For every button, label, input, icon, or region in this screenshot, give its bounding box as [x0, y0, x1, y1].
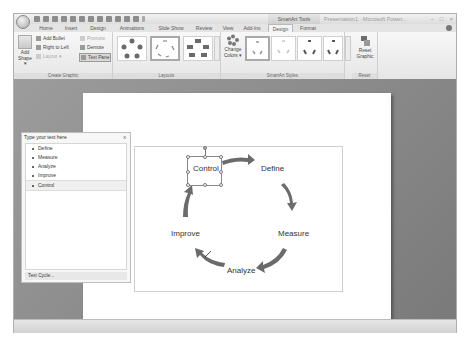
tab-view[interactable]: View: [219, 24, 237, 32]
office-button[interactable]: [16, 15, 30, 29]
tab-smartart-design[interactable]: Design: [268, 24, 293, 32]
right-to-left-button[interactable]: Right to Left: [36, 44, 69, 51]
text-pane-footer-layout-name[interactable]: Text Cycle...: [25, 272, 127, 280]
group-layouts: Layouts: [113, 32, 221, 79]
list-item[interactable]: Improve: [26, 171, 126, 180]
print-icon[interactable]: [88, 16, 94, 22]
text-pane-list[interactable]: Define Measure Analyze Improve Control: [25, 143, 127, 270]
undo-icon[interactable]: [43, 16, 49, 22]
style-moderate-effect[interactable]: [323, 36, 343, 61]
reset-graphic-button[interactable]: Reset Graphic: [354, 35, 376, 59]
list-item[interactable]: Control: [26, 180, 126, 191]
redo-icon[interactable]: [52, 16, 58, 22]
new-icon[interactable]: [70, 16, 76, 22]
text-pane-header: Type your text here x: [22, 133, 130, 142]
resize-handle[interactable]: [219, 170, 223, 174]
maximize-icon[interactable]: □: [440, 16, 444, 22]
promote-button[interactable]: Promote: [80, 35, 105, 42]
tab-home[interactable]: Home: [34, 24, 58, 32]
resize-handle[interactable]: [203, 183, 207, 187]
group-smartart-styles: Change Colors ▾ SmartArt Styles: [221, 32, 345, 79]
arrow-icon: [195, 248, 225, 267]
ribbon: Add Shape ▾ Add Bullet Right to Left Lay…: [14, 32, 456, 80]
format-painter-icon[interactable]: [115, 16, 121, 22]
ribbon-tabs: Home Insert Design Animations Slide Show…: [14, 24, 456, 32]
smartart-text-pane: Type your text here x Define Measure Ana…: [21, 132, 131, 283]
change-colors-button[interactable]: Change Colors ▾: [223, 34, 243, 58]
resize-handle[interactable]: [186, 170, 190, 174]
style-simple-fill[interactable]: [245, 36, 270, 61]
basic-cycle-icon: [118, 37, 146, 60]
selected-shape-outline: [187, 156, 222, 186]
rotation-handle[interactable]: [203, 146, 207, 150]
style-preview-icon: [272, 37, 295, 60]
add-bullet-button[interactable]: Add Bullet: [36, 35, 65, 42]
tab-insert[interactable]: Insert: [60, 24, 82, 32]
add-shape-button[interactable]: Add Shape ▾: [16, 35, 34, 67]
tab-review[interactable]: Review: [192, 24, 216, 32]
style-subtle-effect[interactable]: [297, 36, 322, 61]
demote-button[interactable]: Demote: [80, 44, 104, 51]
styles-gallery-scroll[interactable]: [345, 36, 351, 61]
promote-icon: [80, 36, 85, 41]
group-reset: Reset Graphic Reset: [352, 32, 378, 79]
customize-icon[interactable]: [142, 16, 145, 22]
resize-handle[interactable]: [186, 183, 190, 187]
slideshow-icon[interactable]: [124, 16, 130, 22]
arrow-icon: [222, 154, 255, 165]
smartart-node-improve[interactable]: Improve: [171, 229, 200, 238]
text-pane-button[interactable]: Text Pane: [79, 53, 111, 62]
tab-add-ins[interactable]: Add-Ins: [240, 24, 264, 32]
close-icon[interactable]: x: [123, 133, 126, 142]
open-icon[interactable]: [61, 16, 67, 22]
resize-handle[interactable]: [186, 155, 190, 159]
layouts-gallery-scroll[interactable]: [214, 36, 220, 61]
smartart-node-analyze[interactable]: Analyze: [227, 266, 255, 275]
style-preview-icon: [298, 37, 321, 60]
smartart-node-define[interactable]: Define: [261, 164, 284, 173]
smartart-graphic[interactable]: Control Define Measure Analyze Improve: [134, 146, 343, 292]
list-item[interactable]: Measure: [26, 153, 126, 162]
tab-design[interactable]: Design: [86, 24, 110, 32]
slide-workspace: Type your text here x Define Measure Ana…: [14, 79, 456, 319]
status-bar: [14, 319, 456, 333]
text-pane-title: Type your text here: [24, 134, 67, 140]
style-preview-icon: [247, 38, 268, 59]
smartart-tools-label: SmartArt Tools: [268, 14, 320, 24]
print-preview-icon[interactable]: [97, 16, 103, 22]
resize-handle[interactable]: [203, 155, 207, 159]
layout-text-cycle[interactable]: [150, 36, 180, 61]
text-cycle-icon: [152, 38, 178, 59]
help-icon[interactable]: [446, 25, 452, 31]
style-preview-icon: [324, 37, 342, 60]
group-create-graphic: Add Shape ▾ Add Bullet Right to Left Lay…: [14, 32, 113, 79]
text-pane-icon: [81, 55, 86, 60]
demote-icon: [80, 45, 85, 50]
save-icon[interactable]: [34, 16, 40, 22]
quick-access-toolbar: [34, 15, 145, 23]
resize-handle[interactable]: [219, 155, 223, 159]
window-controls: – □ ×: [431, 14, 453, 24]
tab-format[interactable]: Format: [296, 24, 320, 32]
close-icon[interactable]: ×: [449, 16, 453, 22]
window-title: Presentation1 - Microsoft Power...: [324, 14, 407, 24]
mouse-cursor: [205, 251, 211, 257]
layout-icon: [36, 54, 41, 59]
list-item[interactable]: Analyze: [26, 162, 126, 171]
close-icon[interactable]: [79, 16, 85, 22]
layout-block-cycle[interactable]: [183, 36, 213, 61]
layout-button[interactable]: Layout ▾: [36, 53, 62, 60]
list-item[interactable]: Define: [26, 144, 126, 153]
table-icon[interactable]: [133, 16, 139, 22]
minimize-icon[interactable]: –: [431, 16, 434, 22]
spelling-icon[interactable]: [106, 16, 112, 22]
resize-handle[interactable]: [219, 183, 223, 187]
arrow-icon: [281, 183, 297, 211]
smartart-node-measure[interactable]: Measure: [278, 229, 309, 238]
tab-slide-show[interactable]: Slide Show: [154, 24, 188, 32]
style-white-outline[interactable]: [271, 36, 296, 61]
powerpoint-window: SmartArt Tools Presentation1 - Microsoft…: [13, 13, 457, 333]
tab-animations[interactable]: Animations: [114, 24, 150, 32]
arrow-icon: [183, 185, 193, 217]
layout-basic-cycle[interactable]: [117, 36, 147, 61]
